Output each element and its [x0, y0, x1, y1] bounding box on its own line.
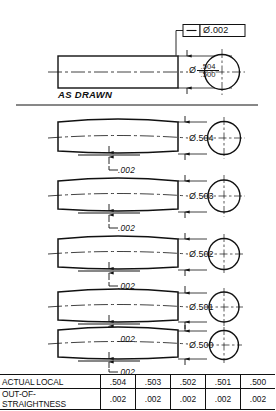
table-cell: .503	[136, 375, 171, 389]
table-cell: .002	[136, 389, 171, 410]
as-drawn-view	[48, 25, 245, 96]
fcf-tolerance-text: Ø.002	[203, 25, 229, 35]
row-4-diameter-label: Ø.501	[189, 302, 214, 312]
table-row: OUT-OF-STRAIGHTNESS .002 .002 .002 .002 …	[0, 389, 275, 410]
fcf-leader	[176, 31, 183, 56]
row-4-oos-label: .002	[118, 334, 135, 344]
oos-leader	[109, 282, 118, 286]
table-cell: .504	[101, 375, 136, 389]
row-3-diameter-label: Ø.502	[189, 249, 214, 259]
drawing-geometry	[0, 0, 275, 411]
table-cell: .002	[101, 389, 136, 410]
table-cell: .002	[206, 389, 241, 410]
oos-leader	[109, 224, 118, 228]
lower-limit-value: .500	[197, 71, 219, 78]
table-cell: .002	[171, 389, 206, 410]
row-1-diameter-label: Ø.504	[189, 133, 214, 143]
row-1-geometry	[48, 116, 245, 170]
table-cell: .002	[241, 389, 276, 410]
row-3-geometry	[48, 233, 244, 286]
row-2-diameter-label: Ø.503	[189, 191, 214, 201]
oos-leader	[109, 166, 118, 170]
table-row-label: ACTUAL LOCAL	[0, 375, 101, 389]
as-drawn-limit-dimension: .504 .500	[197, 63, 219, 79]
as-drawn-diameter-symbol: Ø	[189, 65, 196, 75]
table-cell: .501	[206, 375, 241, 389]
table-cell: .502	[171, 375, 206, 389]
oos-leader	[109, 369, 118, 372]
row-3-oos-label: .002	[118, 281, 135, 291]
table-cell: .500	[241, 375, 276, 389]
table-row: ACTUAL LOCAL .504 .503 .502 .501 .500	[0, 375, 275, 389]
summary-table: ACTUAL LOCAL .504 .503 .502 .501 .500 OU…	[0, 374, 275, 410]
row-5-diameter-label: Ø.500	[189, 340, 214, 350]
row-1-oos-label: .002	[118, 165, 135, 175]
technical-drawing-canvas: Ø.002 Ø .504 .500 AS DRAWN Ø.504 Ø.503 Ø…	[0, 0, 275, 411]
as-drawn-label: AS DRAWN	[58, 89, 112, 100]
row-2-geometry	[48, 175, 245, 228]
row-2-oos-label: .002	[118, 223, 135, 233]
table-row-label: OUT-OF-STRAIGHTNESS	[0, 389, 101, 410]
